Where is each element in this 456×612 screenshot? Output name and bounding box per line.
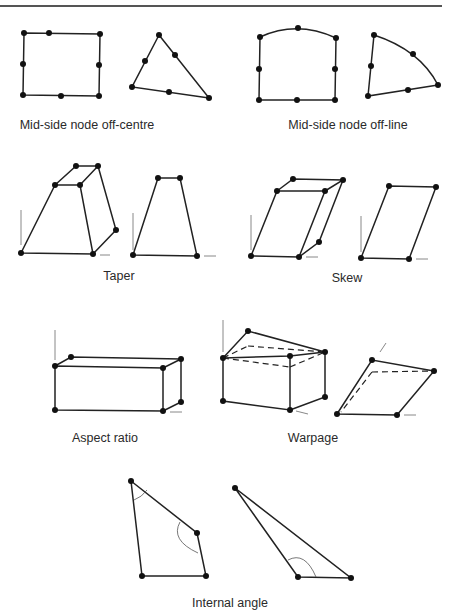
skew-2d xyxy=(361,186,436,259)
caption-warpage: Warpage xyxy=(288,431,338,445)
caption-skew: Skew xyxy=(332,271,363,285)
internal-angle-quad xyxy=(131,481,206,576)
caption-internal: Internal angle xyxy=(192,596,268,610)
offcentre-quad xyxy=(23,33,100,96)
internal-angle-triangle xyxy=(235,488,351,578)
caption-taper: Taper xyxy=(103,269,134,283)
caption-offcentre: Mid-side node off-centre xyxy=(20,118,155,132)
offcentre-triangle xyxy=(132,35,209,98)
caption-offline: Mid-side node off-line xyxy=(288,118,407,132)
skew-3d xyxy=(251,179,343,257)
aspect-box xyxy=(55,330,182,412)
taper-2d xyxy=(133,178,216,256)
offline-triangle xyxy=(368,35,438,96)
taper-3d xyxy=(21,166,116,255)
warpage-2d xyxy=(337,343,434,415)
offline-quad xyxy=(259,29,336,100)
warpage-3d xyxy=(223,320,325,414)
element-distortion-diagram xyxy=(0,0,456,612)
caption-aspect: Aspect ratio xyxy=(72,431,138,445)
